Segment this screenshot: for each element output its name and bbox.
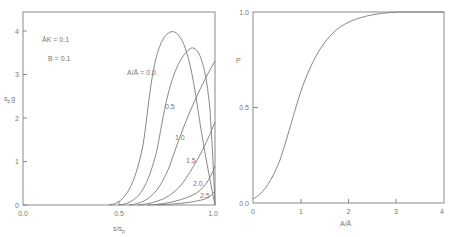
left-ylabel: spg [4,95,15,104]
left-xlabel: s/sp [113,225,125,234]
left-ytick-3: 3 [15,71,19,78]
right-xtick-3: 3 [394,208,398,215]
curve-a-0.0 [109,32,215,205]
curve-label-0.5: 0.5 [165,103,175,110]
left-xtick-0: 0.0 [18,210,28,217]
left-ytick-4: 4 [15,28,19,35]
curve-label-2.0: 2.0 [193,180,203,187]
left-xtick-1: 0.5 [114,210,124,217]
annotation-ak: ĀK = 0.1 [42,36,69,43]
right-plot-frame [253,12,444,203]
left-xtick-2: 1.0 [208,210,218,217]
right-xlabel: A/Ā [340,220,352,227]
right-xtick-2: 2 [347,208,351,215]
annotation-b: B = 0.1 [48,55,70,62]
left-ytick-2: 2 [15,115,19,122]
right-xtick-4: 4 [440,208,444,215]
curve-label-2.5: 2.5 [200,192,210,199]
left-ytick-1: 1 [15,158,19,165]
left-chart: 0 1 2 3 4 0.0 0.5 1.0 spg s/sp ĀK = 0.1 … [4,12,218,234]
curve-label-1.0: 1.0 [175,134,185,141]
right-xtick-0: 0 [251,208,255,215]
right-ytick-1: 0.5 [239,104,249,111]
curve-label-0.0: A/Ā = 0.0 [127,69,156,76]
right-ylabel: P [236,57,241,64]
curve-label-1.5: 1.5 [186,157,196,164]
right-chart: 0.0 0.5 1.0 0 1 2 3 4 P A/Ā [236,9,444,227]
right-ytick-2: 1.0 [239,9,249,16]
right-xtick-1: 1 [299,208,303,215]
figure: 0 1 2 3 4 0.0 0.5 1.0 spg s/sp ĀK = 0.1 … [0,0,456,237]
curve-p [253,12,444,199]
left-ytick-0: 0 [15,202,19,209]
right-ytick-0: 0.0 [239,200,249,207]
